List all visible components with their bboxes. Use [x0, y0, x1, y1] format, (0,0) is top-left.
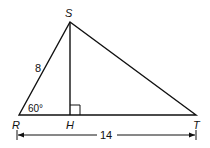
- vertex-label-s: S: [65, 7, 73, 19]
- vertex-label-r: R: [12, 119, 20, 131]
- right-angle-marker: [70, 105, 80, 115]
- arrowhead-right-icon: [189, 133, 195, 138]
- vertex-label-t: T: [193, 119, 201, 131]
- arrowhead-left-icon: [18, 133, 24, 138]
- triangle-rst: [19, 22, 196, 115]
- base-rt-label: 14: [100, 129, 112, 141]
- angle-r-label: 60°: [28, 103, 43, 114]
- triangle-diagram: S R H T 8 60° 14: [0, 0, 210, 148]
- vertex-label-h: H: [66, 119, 74, 131]
- side-rs-label: 8: [35, 62, 41, 74]
